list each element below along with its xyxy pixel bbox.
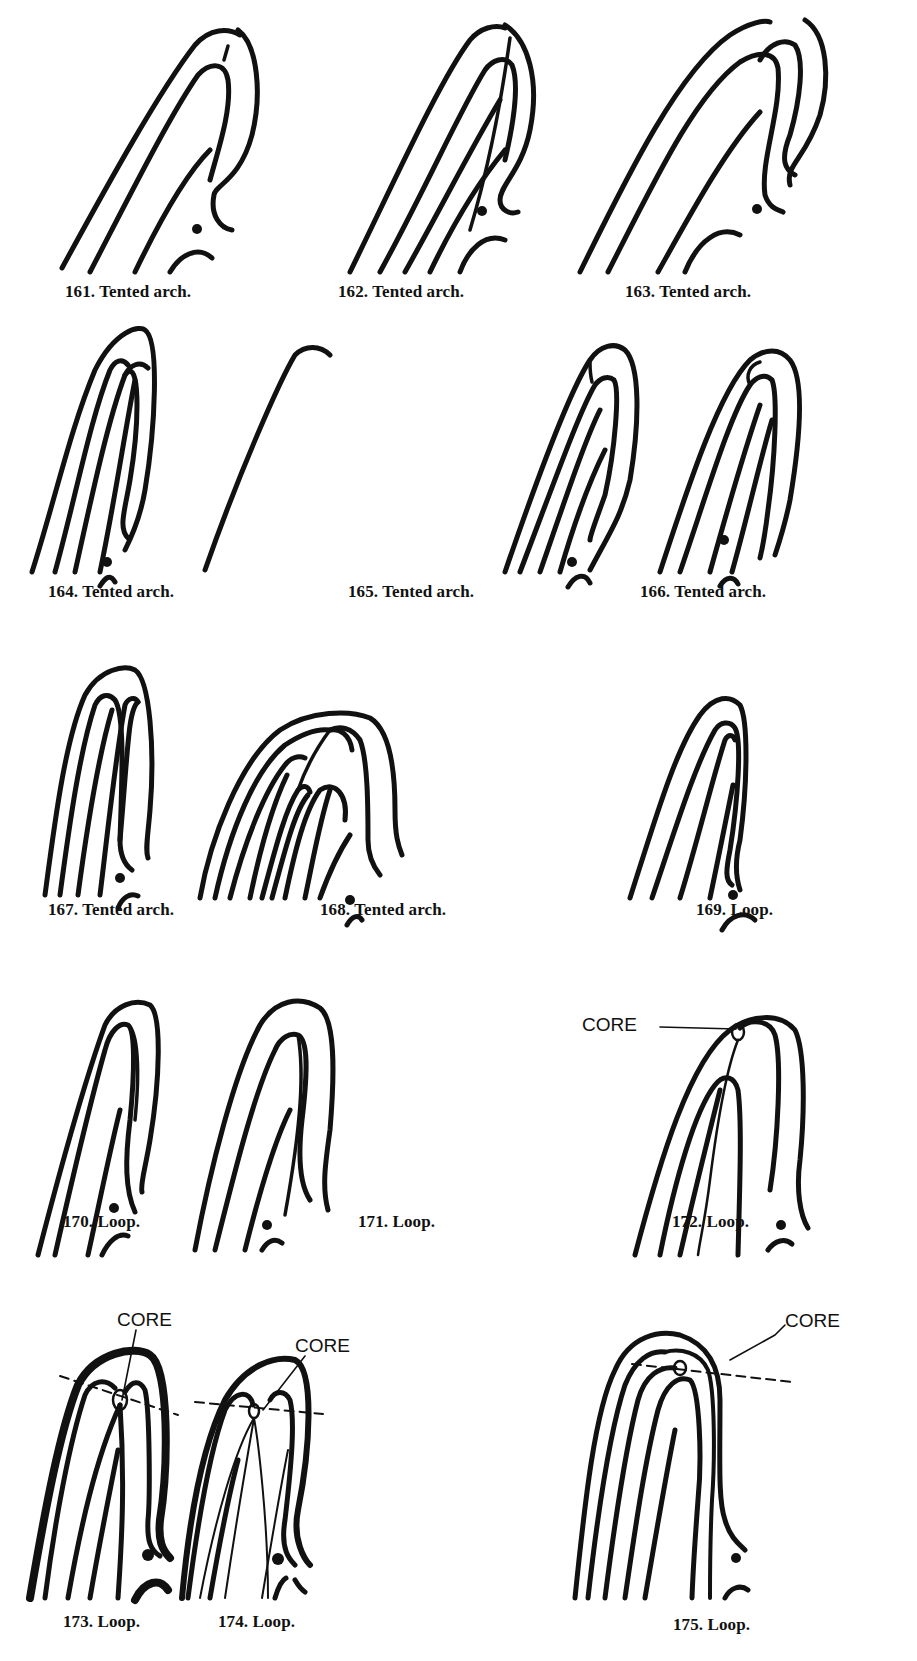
tented-arch-161-diagram — [0, 0, 300, 300]
caption-171: 171. Loop. — [358, 1212, 435, 1232]
tented-arch-165-diagram-lines — [0, 300, 300, 600]
caption-168: 168. Tented arch. — [320, 900, 446, 920]
figure-168 — [190, 640, 520, 940]
figure-161 — [0, 0, 300, 300]
figure-162 — [300, 0, 610, 300]
caption-167: 167. Tented arch. — [48, 900, 174, 920]
caption-162: 162. Tented arch. — [338, 282, 464, 302]
figure-163 — [600, 0, 917, 300]
caption-170: 170. Loop. — [63, 1212, 140, 1232]
caption-175: 175. Loop. — [673, 1615, 750, 1635]
figure-165 — [300, 300, 600, 600]
caption-165: 165. Tented arch. — [348, 582, 474, 602]
loop-175-diagram: CORE — [560, 1280, 917, 1610]
tented-arch-168-diagram — [190, 640, 520, 940]
caption-173: 173. Loop. — [63, 1612, 140, 1632]
caption-169: 169. Loop. — [696, 900, 773, 920]
figure-166 — [600, 300, 917, 600]
figure-175: CORE — [560, 1280, 917, 1610]
caption-172: 172. Loop. — [672, 1212, 749, 1232]
core-label-175: CORE — [785, 1310, 840, 1331]
loop-169-diagram — [600, 640, 917, 940]
tented-arch-163-diagram — [600, 0, 917, 300]
figure-169 — [600, 640, 917, 940]
caption-163: 163. Tented arch. — [625, 282, 751, 302]
figure-174: CORE — [180, 1280, 520, 1610]
core-label-173: CORE — [117, 1309, 172, 1330]
caption-161: 161. Tented arch. — [65, 282, 191, 302]
loop-174-diagram: CORE — [180, 1280, 520, 1610]
tented-arch-162-diagram — [300, 0, 610, 300]
tented-arch-165-diagram — [300, 300, 600, 600]
core-label-172: CORE — [582, 1014, 637, 1035]
caption-166: 166. Tented arch. — [640, 582, 766, 602]
tented-arch-166-diagram — [600, 300, 917, 600]
core-label-174: CORE — [295, 1335, 350, 1356]
caption-174: 174. Loop. — [218, 1612, 295, 1632]
